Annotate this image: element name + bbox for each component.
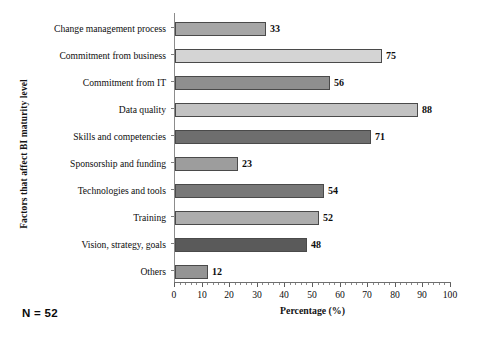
x-axis-minor-tick [345, 283, 346, 285]
x-axis-minor-tick [246, 283, 247, 285]
y-axis-category-labels: Change management processCommitment from… [34, 13, 170, 283]
bar [175, 130, 371, 144]
x-axis-tick-label: 80 [383, 289, 407, 300]
y-axis-category-label: Change management process [30, 24, 166, 34]
x-axis-minor-tick [433, 283, 434, 285]
x-axis-minor-tick [185, 283, 186, 285]
x-axis-minor-tick [273, 283, 274, 285]
y-axis-category-label: Skills and competencies [30, 132, 166, 142]
x-axis-minor-tick [406, 283, 407, 285]
y-axis-tick [171, 27, 174, 28]
x-axis-minor-tick [356, 283, 357, 285]
x-axis-minor-tick [411, 283, 412, 285]
x-axis-tick [422, 283, 423, 287]
x-axis-tick [174, 283, 175, 287]
y-axis-category-label: Sponsorship and funding [30, 159, 166, 169]
bar [175, 76, 330, 90]
x-axis-tick [257, 283, 258, 287]
y-axis-category-label: Commitment from business [30, 51, 166, 61]
x-axis-tick-label: 10 [190, 289, 214, 300]
x-axis-minor-tick [218, 283, 219, 285]
x-axis-minor-tick [180, 283, 181, 285]
x-axis-tick [202, 283, 203, 287]
x-axis-minor-tick [378, 283, 379, 285]
bar-chart: Factors that affect BI maturity level Ch… [0, 0, 503, 342]
x-axis-minor-tick [389, 283, 390, 285]
y-axis-category-label: Vision, strategy, goals [30, 240, 166, 250]
x-axis-minor-tick [191, 283, 192, 285]
y-axis-tick [171, 54, 174, 55]
x-axis-tick [367, 283, 368, 287]
x-axis-minor-tick [196, 283, 197, 285]
bar [175, 265, 208, 279]
y-axis-category-label: Data quality [30, 105, 166, 115]
x-axis-tick [450, 283, 451, 287]
y-axis-title-text: Factors that affect BI maturity level [19, 79, 29, 229]
x-axis-tick [340, 283, 341, 287]
x-axis-minor-tick [295, 283, 296, 285]
x-axis-tick [395, 283, 396, 287]
bar-value-label: 71 [375, 130, 385, 144]
x-axis-tick-label: 90 [410, 289, 434, 300]
bar-value-label: 54 [328, 184, 338, 198]
x-axis-minor-tick [240, 283, 241, 285]
x-axis-minor-tick [439, 283, 440, 285]
bar-value-label: 33 [270, 22, 280, 36]
x-axis-minor-tick [444, 283, 445, 285]
x-axis-minor-tick [207, 283, 208, 285]
x-axis-minor-tick [306, 283, 307, 285]
x-axis-minor-tick [301, 283, 302, 285]
plot-area: 3375568871235452481201020304050607080901… [174, 13, 451, 283]
bar-value-label: 56 [334, 76, 344, 90]
x-axis-minor-tick [279, 283, 280, 285]
x-axis-tick [312, 283, 313, 287]
x-axis-minor-tick [323, 283, 324, 285]
x-axis-minor-tick [318, 283, 319, 285]
bar [175, 184, 324, 198]
x-axis-minor-tick [235, 283, 236, 285]
bar [175, 211, 319, 225]
y-axis-tick [171, 108, 174, 109]
bar-value-label: 48 [311, 238, 321, 252]
bar [175, 103, 418, 117]
x-axis-tick-label: 0 [162, 289, 186, 300]
x-axis-tick-label: 50 [300, 289, 324, 300]
x-axis-minor-tick [251, 283, 252, 285]
bar [175, 49, 382, 63]
x-axis-minor-tick [213, 283, 214, 285]
bar-value-label: 23 [242, 157, 252, 171]
y-axis-tick [171, 162, 174, 163]
y-axis-category-label: Others [30, 267, 166, 277]
x-axis-tick-label: 60 [328, 289, 352, 300]
x-axis-tick [229, 283, 230, 287]
y-axis-tick [171, 135, 174, 136]
y-axis-tick [171, 189, 174, 190]
x-axis-title: Percentage (%) [174, 305, 451, 316]
x-axis-minor-tick [362, 283, 363, 285]
y-axis-category-label: Commitment from IT [30, 78, 166, 88]
bar-value-label: 12 [212, 265, 222, 279]
x-axis-minor-tick [351, 283, 352, 285]
x-axis-minor-tick [428, 283, 429, 285]
bar [175, 238, 307, 252]
y-axis-tick [171, 81, 174, 82]
x-axis-minor-tick [334, 283, 335, 285]
y-axis-tick [171, 243, 174, 244]
y-axis-category-label: Technologies and tools [30, 186, 166, 196]
x-axis-minor-tick [373, 283, 374, 285]
bar-value-label: 75 [386, 49, 396, 63]
bar-value-label: 52 [323, 211, 333, 225]
x-axis-minor-tick [329, 283, 330, 285]
x-axis-minor-tick [384, 283, 385, 285]
x-axis-tick-label: 30 [245, 289, 269, 300]
x-axis-tick-label: 40 [272, 289, 296, 300]
sample-size-note: N = 52 [22, 307, 58, 319]
y-axis-category-label: Training [30, 213, 166, 223]
x-axis-minor-tick [400, 283, 401, 285]
bar-value-label: 88 [422, 103, 432, 117]
x-axis-tick-label: 20 [217, 289, 241, 300]
x-axis-minor-tick [262, 283, 263, 285]
x-axis-tick-label: 70 [355, 289, 379, 300]
x-axis-minor-tick [290, 283, 291, 285]
y-axis-tick [171, 216, 174, 217]
